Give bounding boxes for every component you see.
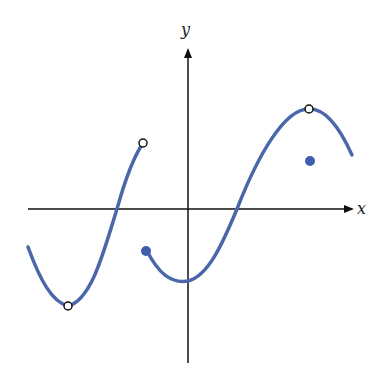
filled-dot-isolated — [305, 156, 315, 166]
open-circle-right-max — [305, 105, 313, 113]
function-graph: y x — [0, 0, 383, 369]
y-axis-label: y — [180, 20, 191, 39]
open-circle-left-min — [64, 302, 72, 310]
filled-dot-right-start — [141, 246, 151, 256]
curve-left-branch — [28, 143, 143, 306]
x-axis-label: x — [357, 199, 366, 218]
open-circle-left-end — [139, 139, 147, 147]
graph-svg: y x — [0, 0, 383, 369]
curve-right-branch — [147, 109, 352, 281]
